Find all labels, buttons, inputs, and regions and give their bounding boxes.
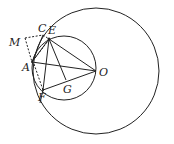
point-A-dot (31, 61, 33, 63)
label-M: M (8, 36, 21, 49)
label-G: G (63, 83, 72, 96)
label-O: O (99, 66, 108, 79)
segment-CA (32, 35, 43, 62)
point-E-dot (48, 38, 51, 41)
dashed-MA (25, 38, 32, 62)
label-C: C (38, 22, 47, 35)
geometry-diagram: C E M A O G F (0, 0, 174, 144)
label-F: F (37, 91, 46, 104)
dashed-MC (25, 35, 43, 38)
segment-AO (32, 62, 96, 71)
label-E: E (47, 24, 56, 37)
label-A: A (21, 61, 30, 74)
